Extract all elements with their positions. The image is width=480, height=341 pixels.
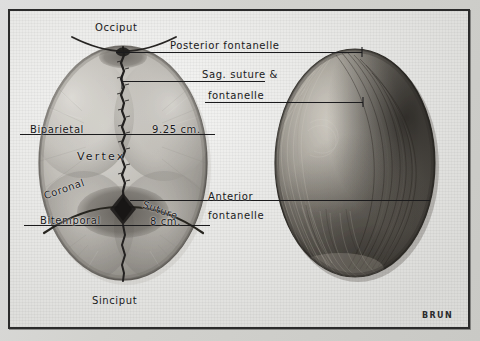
label-biparietal: Biparietal — [30, 125, 84, 136]
illustration-plate: Occiput Posterior fontanelle Sag. suture… — [0, 0, 480, 341]
label-bitemporal-value: 8 cm. — [150, 217, 181, 228]
label-biparietal-value: 9.25 cm. — [152, 125, 201, 136]
label-sag-suture-line1: Sag. suture & — [202, 70, 278, 81]
plate-frame: Occiput Posterior fontanelle Sag. suture… — [8, 9, 470, 329]
paper-surface: Occiput Posterior fontanelle Sag. suture… — [10, 11, 468, 327]
label-posterior-fontanelle: Posterior fontanelle — [170, 41, 280, 52]
label-sinciput: Sinciput — [92, 296, 137, 307]
anatomy-artwork — [10, 11, 468, 327]
label-vertex: Vertex — [77, 151, 126, 163]
infant-head-figure — [271, 49, 439, 285]
label-sag-suture-line2: fontanelle — [208, 91, 264, 102]
label-bitemporal: Bitemporal — [40, 216, 101, 227]
artwork-stage: Occiput Posterior fontanelle Sag. suture… — [10, 11, 468, 327]
label-anterior-fontanelle-line2: fontanelle — [208, 211, 264, 222]
label-anterior-fontanelle-line1: Anterior — [208, 192, 253, 203]
artist-signature: BRUN — [422, 311, 453, 320]
label-occiput: Occiput — [95, 23, 137, 34]
